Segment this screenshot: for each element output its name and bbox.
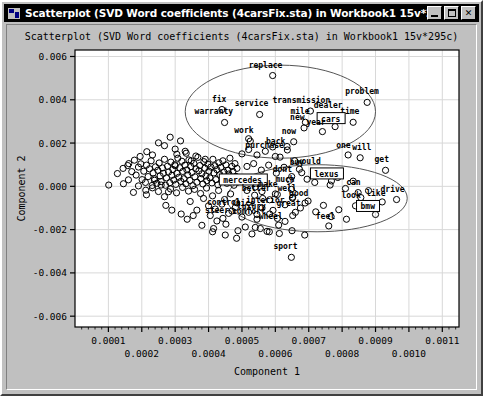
svg-text:-0.004: -0.004 xyxy=(33,267,68,278)
point-label: dealer xyxy=(314,101,343,110)
svg-text:0.0004: 0.0004 xyxy=(191,348,226,359)
svg-text:0.006: 0.006 xyxy=(38,51,67,62)
maximize-button[interactable] xyxy=(444,6,459,20)
point-label: better xyxy=(242,184,271,193)
point-label: will xyxy=(352,142,371,152)
scatterplot-svg[interactable]: 0.0060.0040.0020.000-0.002-0.004-0.0060.… xyxy=(7,25,478,391)
graph-client-area: Scatterplot (SVD Word coefficients (4car… xyxy=(6,24,477,390)
window-titlebar[interactable]: Scatterplot (SVD Word coefficients (4car… xyxy=(4,4,479,22)
x-axis-label: Component 1 xyxy=(234,366,300,377)
svg-text:0.0011: 0.0011 xyxy=(425,335,460,346)
point-label: wheel xyxy=(259,212,283,221)
point-label: one xyxy=(336,141,351,150)
point-label: service xyxy=(235,98,269,108)
point-label: warranty xyxy=(195,107,234,116)
close-button[interactable]: ✕ xyxy=(461,6,476,20)
svg-text:0.0001: 0.0001 xyxy=(91,335,126,346)
svg-text:0.004: 0.004 xyxy=(38,94,67,105)
svg-text:0.0005: 0.0005 xyxy=(225,335,259,346)
point-label: sport xyxy=(273,242,297,251)
point-label: get xyxy=(375,155,390,164)
point-label: can xyxy=(346,178,361,187)
window-controls: ✕ xyxy=(427,6,476,20)
point-label: dont xyxy=(273,165,292,174)
y-axis-label: Component 2 xyxy=(16,155,27,221)
point-label: now xyxy=(282,127,297,136)
statistica-graph-icon xyxy=(7,7,21,20)
point-label: purchase xyxy=(245,141,284,150)
svg-text:0.0003: 0.0003 xyxy=(158,335,192,346)
svg-text:0.000: 0.000 xyxy=(38,181,67,192)
minimize-button[interactable] xyxy=(427,6,442,20)
plot-area: 0.0060.0040.0020.000-0.002-0.004-0.0060.… xyxy=(7,25,478,391)
point-label: look xyxy=(341,191,360,200)
svg-text:-0.006: -0.006 xyxy=(33,311,68,322)
svg-text:0.0002: 0.0002 xyxy=(125,348,159,359)
point-label: replace xyxy=(249,61,283,70)
point-label: fix xyxy=(212,94,227,104)
point-label: much xyxy=(275,175,294,184)
point-label: great xyxy=(276,199,300,208)
x-axis-tick-labels: 0.00010.00020.00030.00040.00050.00060.00… xyxy=(91,335,460,359)
svg-text:0.0006: 0.0006 xyxy=(258,348,293,359)
point-label: new xyxy=(290,113,305,122)
point-label: problem xyxy=(345,87,379,96)
point-label: feel xyxy=(316,212,335,221)
point-label: year xyxy=(306,118,325,127)
y-axis-tick-labels: 0.0060.0040.0020.000-0.002-0.004-0.006 xyxy=(33,51,68,322)
point-label: steer xyxy=(205,206,229,215)
svg-text:0.0009: 0.0009 xyxy=(358,335,393,346)
svg-text:0.0008: 0.0008 xyxy=(325,348,360,359)
svg-text:0.002: 0.002 xyxy=(38,138,67,149)
window-title: Scatterplot (SVD Word coefficients (4car… xyxy=(25,7,427,19)
svg-text:-0.002: -0.002 xyxy=(33,224,67,235)
scatterplot-window: Scatterplot (SVD Word coefficients (4car… xyxy=(0,0,483,396)
svg-text:0.0010: 0.0010 xyxy=(392,348,427,359)
point-label: lexus xyxy=(314,170,338,179)
point-label: bmw xyxy=(361,202,376,211)
svg-text:0.0007: 0.0007 xyxy=(292,335,326,346)
point-label: drive xyxy=(381,184,405,194)
point-label: good xyxy=(289,189,308,198)
point-label: work xyxy=(234,126,253,135)
